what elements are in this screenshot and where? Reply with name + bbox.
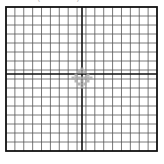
center-cross-symbol xyxy=(72,68,93,89)
grid-paper xyxy=(0,0,164,164)
